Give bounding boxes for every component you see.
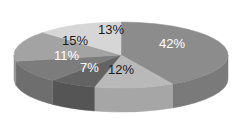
slice-label: 11% [54,48,79,63]
slice-label: 15% [62,33,88,48]
slice-label: 42% [159,36,185,51]
slice-label: 7% [80,60,99,75]
pie-chart-3d: 42%12%7%11%15%13% [0,0,247,118]
slice-label: 13% [98,22,124,37]
pie-slice-side [94,84,172,112]
slice-label: 12% [108,62,134,77]
